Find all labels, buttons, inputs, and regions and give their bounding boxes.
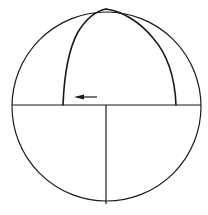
right-arc [106, 9, 176, 105]
arrow-head-icon [74, 95, 84, 100]
sphere-diagram [0, 0, 208, 215]
direction-arrow [74, 95, 97, 100]
left-arc [63, 9, 106, 105]
